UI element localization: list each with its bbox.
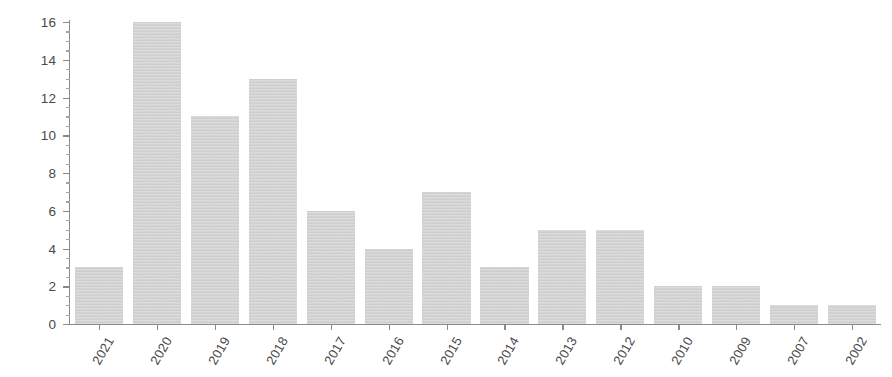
bar [365, 249, 413, 325]
bar [133, 22, 181, 324]
x-axis-tick [736, 324, 737, 330]
y-axis-minor-tick [66, 107, 70, 108]
y-axis-tick [63, 22, 69, 23]
y-axis-minor-tick [66, 79, 70, 80]
x-axis-tick-label: 2017 [321, 334, 349, 367]
x-axis-tick [273, 324, 274, 330]
x-axis-tick [794, 324, 795, 330]
y-axis-minor-tick [66, 116, 70, 117]
bar-chart: 0246810121416 20212020201920182017201620… [0, 0, 892, 377]
x-axis-tick [562, 324, 563, 330]
y-axis-minor-tick [66, 69, 70, 70]
y-axis-tick [63, 249, 69, 250]
y-axis-tick-label: 16 [0, 15, 56, 30]
y-axis-tick-label: 6 [0, 203, 56, 218]
y-axis-minor-tick [66, 50, 70, 51]
bar [480, 267, 528, 324]
x-axis-tick-label: 2012 [610, 334, 638, 367]
x-axis-tick-label: 2010 [668, 334, 696, 367]
bar [828, 305, 876, 324]
x-axis-tick [389, 324, 390, 330]
y-axis-minor-tick [66, 154, 70, 155]
x-axis-tick-label: 2007 [784, 334, 812, 367]
y-axis-minor-tick [66, 239, 70, 240]
y-axis-minor-tick [66, 277, 70, 278]
y-axis-tick-label: 0 [0, 317, 56, 332]
bar [422, 192, 470, 324]
bar [249, 79, 297, 324]
y-axis-minor-tick [66, 126, 70, 127]
y-axis-tick [63, 98, 69, 99]
y-axis-minor-tick [66, 230, 70, 231]
x-axis-tick-label: 2013 [553, 334, 581, 367]
bar [770, 305, 818, 324]
x-axis-tick [331, 324, 332, 330]
y-axis-tick [63, 286, 69, 287]
x-axis-tick-label: 2002 [842, 334, 870, 367]
y-axis-tick-label: 4 [0, 241, 56, 256]
x-axis-tick-label: 2015 [437, 334, 465, 367]
x-axis-tick [852, 324, 853, 330]
y-axis-tick-label: 10 [0, 128, 56, 143]
x-axis-tick-label: 2009 [726, 334, 754, 367]
y-axis-minor-tick [66, 164, 70, 165]
x-axis-tick-label: 2018 [263, 334, 291, 367]
y-axis-minor-tick [66, 41, 70, 42]
x-axis-tick [99, 324, 100, 330]
y-axis-tick [63, 60, 69, 61]
x-axis-tick-label: 2020 [147, 334, 175, 367]
plot-area [70, 22, 880, 324]
x-axis-tick [620, 324, 621, 330]
y-axis-tick-label: 14 [0, 52, 56, 67]
bar [596, 230, 644, 324]
x-axis-tick [678, 324, 679, 330]
x-axis-tick-label: 2016 [379, 334, 407, 367]
y-axis-tick [63, 173, 69, 174]
y-axis-tick [63, 211, 69, 212]
y-axis-tick-label: 8 [0, 166, 56, 181]
y-axis-tick-label: 12 [0, 90, 56, 105]
y-axis-minor-tick [66, 258, 70, 259]
y-axis-minor-tick [66, 305, 70, 306]
bar [712, 286, 760, 324]
bar [307, 211, 355, 324]
y-axis-minor-tick [66, 201, 70, 202]
bar [654, 286, 702, 324]
y-axis-minor-tick [66, 220, 70, 221]
x-axis-tick-label: 2021 [89, 334, 117, 367]
x-axis-tick [215, 324, 216, 330]
x-axis-tick [157, 324, 158, 330]
y-axis-minor-tick [66, 296, 70, 297]
x-axis-tick [504, 324, 505, 330]
y-axis-tick [63, 135, 69, 136]
x-axis-tick [447, 324, 448, 330]
x-axis-tick-label: 2014 [495, 334, 523, 367]
y-axis-tick-label: 2 [0, 279, 56, 294]
y-axis-minor-tick [66, 182, 70, 183]
y-axis-minor-tick [66, 88, 70, 89]
y-axis-minor-tick [66, 192, 70, 193]
y-axis-minor-tick [66, 145, 70, 146]
y-axis-minor-tick [66, 267, 70, 268]
x-axis-tick-label: 2019 [205, 334, 233, 367]
y-axis-minor-tick [66, 31, 70, 32]
y-axis-tick [63, 324, 69, 325]
bar [75, 267, 123, 324]
bar [538, 230, 586, 324]
bar [191, 116, 239, 324]
y-axis-minor-tick [66, 315, 70, 316]
